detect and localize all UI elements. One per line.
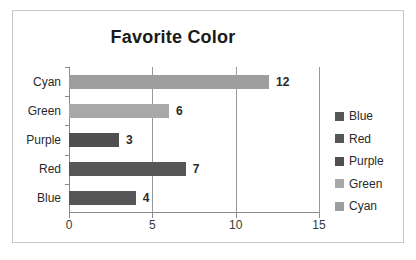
plot-area: 126374 051015 CyanGreenPurpleRedBlue xyxy=(69,67,319,213)
chart-frame: Favorite Color 126374 051015 CyanGreenPu… xyxy=(12,10,404,243)
bar-value-blue: 4 xyxy=(143,191,150,205)
legend-label-purple: Purple xyxy=(349,154,384,168)
category-label-blue: Blue xyxy=(37,191,61,205)
category-label-red: Red xyxy=(39,162,61,176)
x-axis-line xyxy=(69,212,319,213)
legend-label-green: Green xyxy=(349,177,382,191)
x-tick-label-10: 10 xyxy=(229,218,242,232)
legend-item-blue[interactable]: Blue xyxy=(335,105,405,128)
chart-title: Favorite Color xyxy=(13,27,333,48)
bar-row: 12 xyxy=(69,67,319,96)
category-label-purple: Purple xyxy=(26,133,61,147)
legend-swatch-blue xyxy=(335,112,344,121)
legend-item-purple[interactable]: Purple xyxy=(335,150,405,173)
legend-label-blue: Blue xyxy=(349,109,373,123)
bar-row: 4 xyxy=(69,184,319,213)
bar-value-cyan: 12 xyxy=(276,75,289,89)
bar-cyan[interactable] xyxy=(69,75,269,89)
category-label-cyan: Cyan xyxy=(33,75,61,89)
legend-item-green[interactable]: Green xyxy=(335,173,405,196)
legend-swatch-green xyxy=(335,179,344,188)
gridline-15 xyxy=(319,67,320,213)
bar-row: 3 xyxy=(69,125,319,154)
bar-value-purple: 3 xyxy=(126,133,133,147)
legend-swatch-purple xyxy=(335,157,344,166)
x-tick-label-0: 0 xyxy=(66,218,73,232)
chart-legend: BlueRedPurpleGreenCyan xyxy=(335,105,405,218)
bar-green[interactable] xyxy=(69,104,169,118)
bar-blue[interactable] xyxy=(69,191,136,205)
legend-label-cyan: Cyan xyxy=(349,199,377,213)
x-tick-label-5: 5 xyxy=(149,218,156,232)
bar-value-red: 7 xyxy=(193,162,200,176)
bar-red[interactable] xyxy=(69,162,186,176)
category-label-green: Green xyxy=(28,104,61,118)
bar-row: 7 xyxy=(69,155,319,184)
bar-row: 6 xyxy=(69,96,319,125)
legend-item-cyan[interactable]: Cyan xyxy=(335,195,405,218)
bar-purple[interactable] xyxy=(69,133,119,147)
bar-value-green: 6 xyxy=(176,104,183,118)
legend-swatch-red xyxy=(335,134,344,143)
legend-swatch-cyan xyxy=(335,202,344,211)
legend-item-red[interactable]: Red xyxy=(335,128,405,151)
x-tick-label-15: 15 xyxy=(312,218,325,232)
legend-label-red: Red xyxy=(349,132,371,146)
